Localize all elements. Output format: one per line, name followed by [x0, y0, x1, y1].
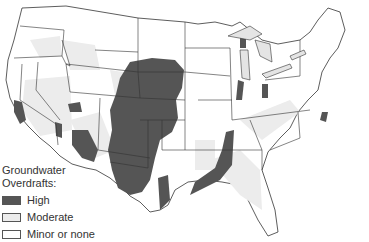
- indiana-region: [262, 84, 268, 98]
- north-carolina-region: [320, 112, 328, 122]
- high-swatch-icon: [2, 196, 21, 205]
- legend-item-moderate: Moderate: [2, 209, 95, 226]
- map-legend: Groundwater Overdrafts: High Moderate Mi…: [2, 164, 95, 242]
- minor-swatch-icon: [2, 230, 21, 239]
- legend-title-line1: Groundwater: [2, 164, 95, 177]
- legend-label: Minor or none: [27, 228, 95, 241]
- legend-title: Groundwater Overdrafts:: [2, 164, 95, 190]
- legend-title-line2: Overdrafts:: [2, 177, 95, 190]
- legend-label: Moderate: [27, 211, 73, 224]
- moderate-swatch-icon: [2, 213, 21, 222]
- legend-item-high: High: [2, 192, 95, 209]
- legend-label: High: [27, 194, 50, 207]
- legend-item-minor: Minor or none: [2, 226, 95, 242]
